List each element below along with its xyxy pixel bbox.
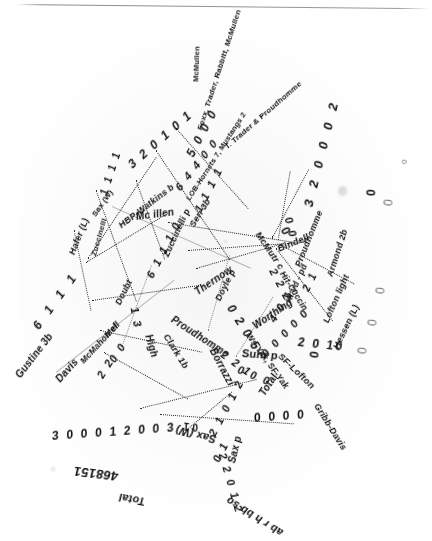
stat-line-e: 3 0 0 0 1 2 0 0 3 [52,421,176,442]
single-digit-far-right: 0 [400,158,409,165]
paper-edge-line [16,4,430,9]
single-digit-right: 0 [365,189,378,197]
player-name-hessen: Hessen (L) [332,303,361,351]
scanned-page: Foxx, Trader, Rabbitt, McMullen T. Trade… [0,0,432,541]
player-name-doubt: Doubt [114,278,134,307]
totals-label-left: Total [118,492,147,507]
stat-line-d: 3 2 0 0 0 2 [302,97,341,209]
column-header-row: ab r h bb so [224,495,286,538]
right-zero-a: 0 [382,198,395,206]
player-name-armond: Armond 2b [326,228,350,279]
player-name-zuccinelli-left: Zuccinelli [90,217,108,257]
right-zero-d: 0 [356,346,369,354]
ink-smudge [51,467,55,471]
player-name-hafer: Hafer (L) [68,216,91,256]
player-name-davis: Davis [55,357,80,385]
ink-smudge [224,240,227,243]
bottom-p-label: 0 1 [183,421,198,432]
player-name-seri: Seri 3b [189,197,213,229]
stat-line-a: 3 2 0 1 0 1 [127,108,194,172]
player-name-clark: Clark 1b [162,333,191,370]
player-line-hessen: 0 [308,350,321,359]
player-name-mell: Mell [103,320,121,340]
leader-line [92,285,199,301]
ink-smudge [338,186,347,196]
totals-figures: 468151 [72,465,119,483]
player-line-gustine: 6 1 1 1 [32,269,81,333]
player-name-high: High [143,334,159,358]
note-gribb-davis: Gribb-Davis [312,403,348,452]
player-line-mcmahon: 2 2 [96,356,116,381]
trailing-name: McMullen [192,46,201,82]
right-zero-c: 0 [366,318,379,326]
player-line-high: 1 3 [129,307,144,330]
line-sf-lofton: 0 0 0 0 [254,408,306,424]
player-name-gustine: Gustine 3b [14,331,54,380]
right-zero-b: 0 [374,286,387,294]
